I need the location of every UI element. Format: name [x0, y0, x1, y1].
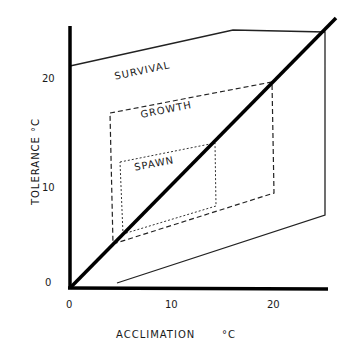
y-tick-0: 0: [45, 277, 51, 288]
x-tick-0: 0: [66, 299, 72, 310]
x-tick-20: 20: [267, 299, 280, 310]
x-axis-unit: °C: [222, 329, 236, 340]
y-tick-10: 10: [42, 182, 55, 193]
diagonal-line: [70, 18, 336, 288]
y-tick-20: 20: [42, 73, 55, 84]
y-axis-label: TOLERANCE °C: [30, 107, 41, 217]
x-axis-label: ACCLIMATION: [116, 329, 195, 340]
x-tick-10: 10: [165, 299, 178, 310]
x-axis: [68, 288, 328, 289]
